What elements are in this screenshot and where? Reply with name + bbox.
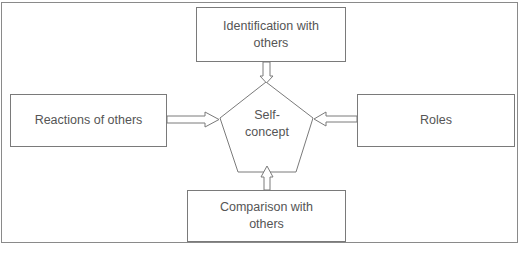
arrow-right-to-center [314,112,357,126]
self-concept-line1: Self- [226,107,308,124]
node-bottom-line2: others [220,216,313,233]
node-top-line1: Identification with [223,18,319,35]
node-identification-with-others: Identification with others [196,7,346,62]
node-reactions-of-others: Reactions of others [10,94,167,147]
node-right-label: Roles [420,112,452,129]
node-roles: Roles [357,94,515,147]
node-left-label: Reactions of others [35,112,143,129]
arrow-left-to-center [167,112,219,127]
node-top-line2: others [223,35,319,52]
node-comparison-with-others: Comparison with others [187,190,346,242]
self-concept-line2: concept [226,124,308,141]
self-concept-label: Self- concept [226,107,308,141]
node-bottom-line1: Comparison with [220,199,313,216]
arrow-top-to-center [260,62,273,83]
